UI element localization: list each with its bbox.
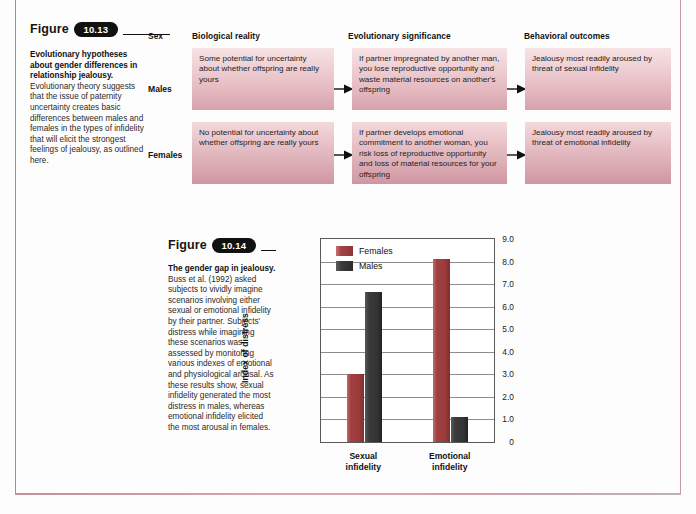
textbook-page: Figure 10.13 Evolutionary hypotheses abo… — [0, 0, 696, 514]
column-header-biological-reality: Biological reality — [192, 31, 260, 41]
cell-males-behavioral-outcome: Jealousy most readily aroused by threat … — [525, 48, 671, 110]
figure-label-word-1014: Figure — [168, 238, 207, 253]
legend-item-males: Males — [336, 261, 393, 271]
chart-gridline — [321, 352, 494, 353]
chart-gridline — [321, 284, 494, 285]
chart-bar-males-0 — [365, 292, 382, 442]
chart-y-tick: 1.0 — [480, 414, 514, 424]
chart-y-tick: 3.0 — [480, 369, 514, 379]
chart-y-tick: 2.0 — [480, 392, 514, 402]
chart-gridline — [321, 307, 494, 308]
figure-1014-caption-title: The gender gap in jealousy. — [168, 264, 275, 273]
figure-1014-caption: The gender gap in jealousy. Buss et al. … — [168, 264, 276, 434]
row-label-males: Males — [148, 84, 172, 94]
figure-1013-caption-title: Evolutionary hypotheses about gender dif… — [30, 50, 137, 80]
chart-y-axis-label: Index of distress — [240, 288, 250, 408]
column-header-evolutionary-significance: Evolutionary significance — [348, 31, 451, 41]
figure-1014-header: Figure 10.14 — [168, 238, 276, 253]
cell-males-evolutionary-significance: If partner impregnated by another man, y… — [352, 48, 507, 110]
chart-y-tick: 7.0 — [480, 279, 514, 289]
arrow-males-significance-to-outcome — [507, 84, 527, 94]
arrow-females-reality-to-significance — [334, 150, 354, 160]
chart-y-tick: 6.0 — [480, 302, 514, 312]
figure-number-badge-1014: 10.14 — [212, 238, 256, 253]
page-rule-right — [680, 0, 681, 494]
row-label-females: Females — [148, 150, 182, 160]
column-header-behavioral-outcomes: Behavioral outcomes — [524, 31, 610, 41]
figure-1013-caption-body: Evolutionary theory suggests that the is… — [30, 82, 144, 165]
chart-y-tick: 0 — [480, 437, 514, 447]
page-rule-left — [15, 0, 16, 494]
figure-header-rule-1014 — [261, 250, 276, 252]
chart-x-tick-0: Sexualinfidelity — [323, 451, 403, 473]
chart-bar-males-1 — [451, 417, 468, 442]
figure-number-badge: 10.13 — [74, 22, 118, 37]
cell-females-evolutionary-significance: If partner develops emotional commitment… — [352, 122, 507, 184]
chart-bar-females-0 — [347, 374, 364, 442]
chart-y-tick: 8.0 — [480, 257, 514, 267]
chart-y-tick: 4.0 — [480, 347, 514, 357]
chart-y-tick: 9.0 — [480, 234, 514, 244]
legend-item-females: Females — [336, 246, 393, 256]
figure-1014-caption-body: Buss et al. (1992) asked subjects to viv… — [168, 275, 274, 432]
column-header-sex: Sex — [148, 31, 163, 41]
legend-label-males: Males — [359, 261, 382, 271]
cell-females-behavioral-outcome: Jealousy most readily aroused by threat … — [525, 122, 671, 184]
gender-gap-bar-chart: Index of distress 9.08.07.06.05.04.03.02… — [282, 232, 514, 482]
legend-label-females: Females — [359, 246, 393, 256]
cell-females-biological-reality: No potential for uncertainty about wheth… — [192, 122, 334, 184]
cell-males-biological-reality: Some potential for uncertainty about whe… — [192, 48, 334, 110]
cell-females-behavioral-outcome-text: Jealousy most readily aroused by threat … — [532, 128, 664, 149]
chart-gridline — [321, 329, 494, 330]
figure-label-word: Figure — [30, 22, 69, 37]
chart-x-tick-1: Emotionalinfidelity — [410, 451, 490, 473]
page-rule-bottom — [15, 493, 681, 495]
chart-y-tick: 5.0 — [480, 324, 514, 334]
cell-males-biological-reality-text: Some potential for uncertainty about whe… — [199, 54, 327, 85]
cell-females-evolutionary-significance-text: If partner develops emotional commitment… — [359, 128, 500, 180]
cell-males-evolutionary-significance-text: If partner impregnated by another man, y… — [359, 54, 500, 96]
chart-bar-females-1 — [433, 259, 450, 442]
cell-females-biological-reality-text: No potential for uncertainty about wheth… — [199, 128, 327, 149]
chart-legend: Females Males — [336, 246, 393, 276]
legend-swatch-males-icon — [336, 261, 353, 271]
cell-males-behavioral-outcome-text: Jealousy most readily aroused by threat … — [532, 54, 664, 75]
arrow-females-significance-to-outcome — [507, 150, 527, 160]
arrow-males-reality-to-significance — [334, 84, 354, 94]
figure-1013-caption: Evolutionary hypotheses about gender dif… — [30, 50, 148, 167]
legend-swatch-females-icon — [336, 246, 353, 256]
